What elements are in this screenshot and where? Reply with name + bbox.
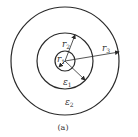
concentric-spheres-diagram: r1 r2 r3 ε1 ε2 (a) — [0, 0, 138, 137]
epsilon1-label: ε1 — [63, 77, 72, 88]
r3-label: r3 — [102, 43, 110, 54]
r2-label: r2 — [62, 39, 70, 50]
epsilon2-label: ε2 — [65, 97, 74, 108]
figure-caption: (a) — [57, 123, 68, 132]
r1-label: r1 — [57, 54, 65, 65]
